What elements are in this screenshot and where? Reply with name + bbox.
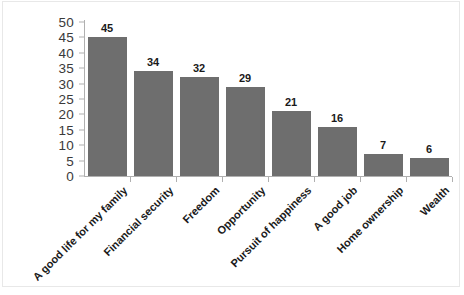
bar-value-label: 29 (216, 72, 275, 84)
y-axis-tick-label: 50 (59, 15, 74, 30)
x-axis-tick-mark (452, 177, 453, 182)
bar[interactable] (272, 111, 311, 176)
bar-chart-figure: 50454035302520151050 45343229211676 A go… (0, 0, 464, 295)
plot-area: 45343229211676 (84, 22, 452, 176)
y-axis-tick-label: 10 (59, 138, 74, 153)
y-axis-tick-label: 20 (59, 107, 74, 122)
y-axis-tick-label: 5 (66, 153, 74, 168)
x-axis-tick-mark (360, 177, 361, 182)
x-axis-tick-mark (314, 177, 315, 182)
x-axis-tick-mark (176, 177, 177, 182)
x-axis-tick-mark (268, 177, 269, 182)
bar[interactable] (134, 71, 173, 176)
y-axis-tick-label: 35 (59, 61, 74, 76)
x-axis-category-label: Pursuit of happiness (228, 184, 313, 269)
bar-value-label: 21 (262, 96, 321, 108)
bar[interactable] (364, 154, 403, 176)
bar-value-label: 45 (78, 22, 137, 34)
bar[interactable] (180, 77, 219, 176)
y-axis-tick-label: 45 (59, 30, 74, 45)
y-axis-tick-label: 15 (59, 122, 74, 137)
y-axis-tick-label: 40 (59, 45, 74, 60)
x-axis-category-label: A good life for my family (31, 184, 130, 283)
x-axis-tick-mark (222, 177, 223, 182)
x-axis-category-label: Freedom (180, 184, 221, 225)
bar[interactable] (318, 127, 357, 176)
x-axis-tick-mark (406, 177, 407, 182)
x-axis-category-label: Wealth (418, 184, 452, 218)
y-axis-tick-label: 0 (66, 169, 74, 184)
x-axis-category-label: A good job (311, 184, 360, 233)
bar-value-label: 16 (308, 112, 367, 124)
bar[interactable] (88, 37, 127, 176)
y-axis-tick-label: 25 (59, 92, 74, 107)
x-axis-tick-mark (130, 177, 131, 182)
bar-value-label: 6 (400, 143, 459, 155)
y-axis-tick-label: 30 (59, 76, 74, 91)
bar[interactable] (410, 158, 449, 176)
bar[interactable] (226, 87, 265, 176)
